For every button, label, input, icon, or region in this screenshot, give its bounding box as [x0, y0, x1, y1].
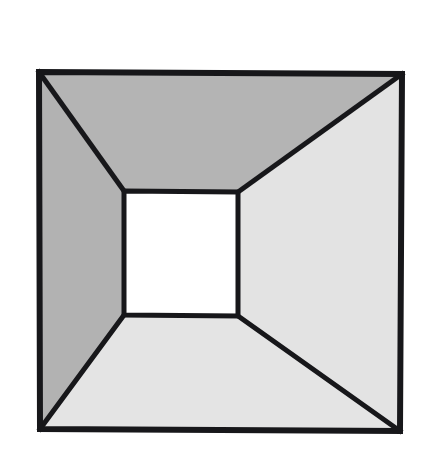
figure-canvas: Four-face linear perspective box (tunnel…: [0, 0, 428, 471]
center-square-face: [124, 191, 238, 316]
perspective-box-illustration: Four-face linear perspective box (tunnel…: [0, 0, 428, 471]
faces-group: [39, 72, 402, 431]
